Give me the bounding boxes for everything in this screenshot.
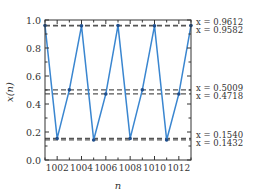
reference-label: x = 0.9582 — [196, 25, 243, 35]
data-point — [92, 138, 96, 142]
period-three-cycle-chart: 100210041006100810101012 0.00.20.40.60.8… — [0, 0, 254, 194]
y-tick-label: 0.6 — [26, 71, 41, 82]
x-axis-label: n — [115, 180, 121, 191]
data-series — [43, 24, 193, 142]
data-point — [177, 92, 181, 96]
data-point — [104, 92, 108, 96]
data-point — [165, 138, 169, 142]
data-point — [80, 24, 84, 28]
x-tick-label: 1004 — [70, 163, 93, 173]
data-point — [68, 88, 72, 92]
y-axis-label: x(n) — [4, 82, 15, 102]
data-point — [141, 88, 145, 92]
x-tick-label: 1002 — [46, 163, 69, 173]
y-tick-label: 0.4 — [26, 99, 41, 110]
reference-lines — [45, 25, 191, 140]
x-tick-label: 1012 — [167, 163, 190, 173]
data-point — [55, 137, 59, 141]
y-tick-label: 0.8 — [26, 43, 41, 54]
chart-canvas: 100210041006100810101012 0.00.20.40.60.8… — [0, 0, 254, 194]
data-point — [128, 137, 132, 141]
y-tick-label: 1.0 — [26, 15, 41, 26]
series-line — [45, 25, 191, 140]
data-point — [116, 24, 120, 28]
y-tick-label: 0.2 — [26, 127, 41, 138]
x-axis: 100210041006100810101012 — [45, 20, 191, 173]
x-tick-label: 1010 — [143, 163, 166, 173]
reference-label: x = 0.4718 — [196, 91, 243, 101]
x-tick-label: 1006 — [94, 163, 117, 173]
y-tick-label: 0.0 — [26, 155, 41, 166]
x-tick-label: 1008 — [119, 163, 142, 173]
reference-labels: x = 0.9612x = 0.9582x = 0.5009x = 0.4718… — [196, 17, 243, 149]
data-point — [153, 24, 157, 28]
reference-label: x = 0.1432 — [196, 138, 243, 148]
